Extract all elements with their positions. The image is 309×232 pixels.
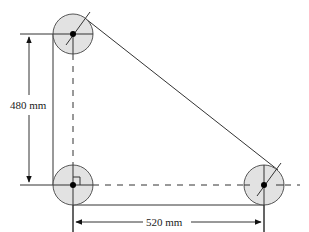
pulley-top-left	[53, 12, 93, 54]
belt-diagonal-segment	[86, 19, 278, 170]
vertical-dimension-label: 480 mm	[10, 99, 47, 111]
center-dot	[70, 31, 76, 37]
extension-lines	[20, 34, 264, 232]
belt-pulley-diagram: 480 mm 520 mm	[0, 0, 309, 232]
horizontal-dimension: 520 mm	[76, 216, 261, 228]
center-dot	[70, 182, 76, 188]
horizontal-dimension-label: 520 mm	[146, 216, 183, 228]
vertical-dimension: 480 mm	[8, 37, 52, 182]
center-dot	[261, 182, 267, 188]
